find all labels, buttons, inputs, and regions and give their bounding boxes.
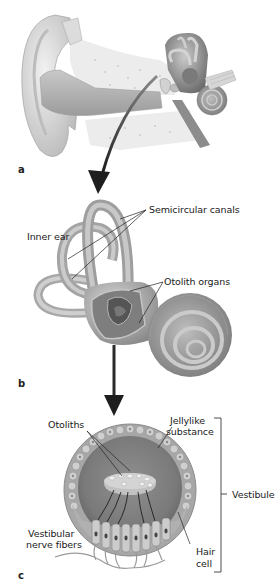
arrowhead-a-to-b xyxy=(88,170,110,194)
panel-letter-a: a xyxy=(18,164,25,175)
label-vestibular-line1: Vestibular xyxy=(28,528,74,539)
label-semicircular-canals: Semicircular canals xyxy=(149,204,240,215)
label-vestibule: Vestibule xyxy=(232,489,275,500)
label-hair-line2: cell xyxy=(196,558,212,569)
label-vestibular-line2: nerve fibers xyxy=(26,539,82,550)
arrowhead-b-to-c xyxy=(104,395,124,416)
panel-letter-c: c xyxy=(18,570,24,581)
inner-ear-figure: a b c Semicircular canals Inner ear Otol… xyxy=(0,0,278,586)
label-otolith-organs: Otolith organs xyxy=(164,276,230,287)
panel-letter-b: b xyxy=(18,378,25,389)
vestibule-bracket xyxy=(214,418,227,572)
label-jellylike-line2: substance xyxy=(166,426,214,437)
label-otoliths: Otoliths xyxy=(48,419,84,430)
label-hair-line1: Hair xyxy=(196,546,215,557)
label-jellylike-line1: Jellylike xyxy=(170,415,205,426)
label-inner-ear: Inner ear xyxy=(27,231,69,242)
